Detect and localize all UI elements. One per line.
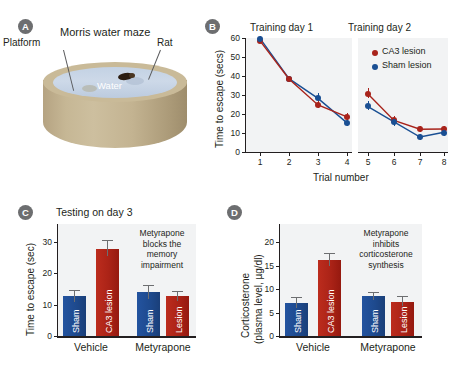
panel-b-xlabel-4: 4 (340, 157, 354, 167)
panel-d-ytick-15 (276, 266, 279, 267)
panel-d-errorbar-metyrapone-sham (373, 292, 374, 300)
panel-b-point-sham-5 (365, 103, 371, 109)
panel-d-barlabel-vehicle-sham: Sham (293, 309, 303, 333)
panel-b-xlabel-3: 3 (311, 157, 325, 167)
panel-b-x-axis-day2 (358, 152, 448, 153)
panel-d-errorcap-vehicle-sham (291, 297, 302, 298)
panel-d-y-axis-title-line2: (plasma level, µg/dl) (253, 254, 264, 344)
panel-c-errorbar-vehicle-ca3 (107, 240, 108, 256)
panel-c-group-label-vehicle: Vehicle (64, 341, 118, 353)
legend-label-sham: Sham lesion (382, 60, 432, 70)
panel-d-ytick-10 (276, 289, 279, 290)
panel-b-xlabel-7: 7 (413, 157, 427, 167)
panel-d-errorbar-vehicle-sham (296, 297, 297, 308)
panel-a-title: Morris water maze (60, 26, 150, 38)
panel-c-barlabel-metyrapone-lesion: Lesion (174, 306, 184, 333)
panel-b-xtick-5 (368, 153, 369, 156)
panel-b-x-axis-title: Trial number (313, 172, 369, 183)
panel-b-point-sham-3 (315, 95, 321, 101)
rat-head-shape (129, 73, 135, 78)
panel-d-barlabel-metyrapone-lesion: Lesion (399, 306, 409, 333)
panel-c-annotation: Metyrapone blocks the memory impairment (132, 228, 192, 270)
panel-d-errorbar-vehicle-ca3 (329, 253, 330, 266)
panel-b-point-ca3-5 (365, 91, 371, 97)
legend-dot-ca3 (372, 50, 378, 56)
panel-d-y-axis-title: Corticosterone (240, 273, 251, 338)
panel-b-point-sham-8 (441, 130, 447, 136)
panel-c-escape-time-bars: C Testing on day 3 0 10 20 30 Sham CA3 l… (0, 196, 222, 381)
panel-b-ytick-0 (242, 152, 245, 153)
panel-c-title: Testing on day 3 (56, 206, 132, 218)
panel-b-xtick-1 (260, 153, 261, 156)
panel-d-group-label-vehicle: Vehicle (286, 341, 340, 353)
panel-b-ytick-30 (242, 95, 245, 96)
panel-b-y-axis (245, 38, 246, 152)
panel-b-y-axis-title: Time to escape (secs) (214, 50, 225, 148)
panel-b-ytick-60 (242, 38, 245, 39)
panel-b-xlabel-6: 6 (387, 157, 401, 167)
panel-b-xtick-6 (394, 153, 395, 156)
panel-b-xlabel-8: 8 (437, 157, 451, 167)
panel-c-ytick-20 (54, 273, 57, 274)
panel-c-errorbar-vehicle-sham (74, 290, 75, 302)
panel-d-y-axis-title-line1: Corticosterone (240, 273, 251, 338)
panel-b-point-sham-4 (344, 120, 350, 126)
panel-b-subtitle-day2: Training day 2 (348, 22, 411, 33)
panel-a-badge: A (18, 19, 33, 34)
panel-b-point-ca3-2 (286, 76, 292, 82)
panel-b-point-sham-7 (417, 134, 423, 140)
water-maze-illustration: Water (35, 62, 195, 167)
panel-c-ytick-10 (54, 305, 57, 306)
panel-d-badge: D (227, 205, 242, 220)
panel-b-plot-day1 (246, 38, 352, 152)
water-label: Water (97, 80, 122, 91)
panel-d-ytick-5 (276, 313, 279, 314)
panel-b-ytick-40 (242, 76, 245, 77)
panel-b-xtick-8 (444, 153, 445, 156)
panel-d-errorbar-metyrapone-lesion (402, 296, 403, 306)
panel-c-ytick-0 (54, 336, 57, 337)
panel-c-errorcap-metyrapone-lesion (172, 291, 183, 292)
panel-d-ytick-20 (276, 242, 279, 243)
panel-c-y-axis-title: Time to escape (sec) (25, 243, 36, 336)
panel-b-xtick-2 (289, 153, 290, 156)
panel-c-x-axis (57, 336, 196, 338)
panel-b-point-sham-1 (257, 36, 263, 42)
panel-c-errorbar-metyrapone-sham (148, 285, 149, 299)
panel-b-subtitle-day1: Training day 1 (250, 22, 313, 33)
panel-b-xlabel-2: 2 (282, 157, 296, 167)
panel-d-x-axis (279, 336, 422, 338)
panel-b-badge: B (205, 19, 220, 34)
panel-c-badge: C (18, 205, 33, 220)
panel-d-errorcap-vehicle-ca3 (324, 253, 335, 254)
panel-b-ytick-50 (242, 57, 245, 58)
panel-a-water-maze: A Morris water maze Water Platform Rat (0, 0, 215, 196)
panel-d-group-label-metyrapone: Metyrapone (353, 341, 423, 353)
panel-d-ylabel-20: 20 (252, 237, 274, 247)
panel-b-xlabel-5: 5 (361, 157, 375, 167)
panel-d-y-axis-subtitle: (plasma level, µg/dl) (253, 254, 264, 344)
panel-b-x-axis-day1 (245, 152, 352, 153)
panel-b-ytick-20 (242, 114, 245, 115)
panel-c-errorcap-vehicle-sham (69, 290, 80, 291)
panel-c-errorcap-metyrapone-sham (143, 285, 154, 286)
panel-d-annotation: Metyrapone inhibits corticosterone synth… (352, 228, 420, 270)
panel-c-group-label-metyrapone: Metyrapone (128, 341, 198, 353)
panel-d-corticosterone-bars: D 0 5 10 15 20 Sham CA3 lesion Sham Lesi… (222, 196, 451, 381)
platform-label: Platform (3, 37, 40, 48)
platform-shape (82, 85, 97, 92)
panel-d-y-axis (279, 224, 280, 336)
panel-c-barlabel-vehicle-sham: Sham (71, 309, 81, 333)
panel-b-training-curves: B Training day 1 Training day 2 0 10 20 … (200, 0, 451, 196)
panel-b-ytick-10 (242, 133, 245, 134)
panel-b-xlabel-1: 1 (253, 157, 267, 167)
panel-d-ytick-0 (276, 336, 279, 337)
panel-c-errorbar-metyrapone-lesion (177, 291, 178, 301)
panel-d-errorcap-metyrapone-sham (368, 292, 379, 293)
panel-b-xtick-7 (420, 153, 421, 156)
rat-label: Rat (157, 37, 173, 48)
panel-c-y-axis (57, 224, 58, 336)
panel-b-ylabel-0: 0 (218, 147, 240, 157)
panel-c-barlabel-metyrapone-sham: Sham (145, 309, 155, 333)
panel-d-barlabel-metyrapone-sham: Sham (370, 309, 380, 333)
